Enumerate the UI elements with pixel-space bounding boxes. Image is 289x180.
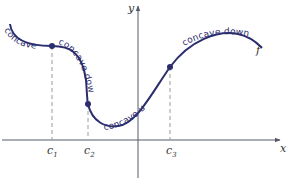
c1-label: c1 [47, 144, 58, 159]
x-axis-label: x [280, 142, 287, 155]
inflection-point-c3 [167, 64, 173, 70]
concave-up-label-1: concave up [0, 0, 40, 51]
inflection-point-c1 [49, 43, 55, 49]
c3-label: c3 [166, 144, 177, 159]
c2-label: c2 [84, 144, 95, 159]
concave-up-label-2: concave up [0, 0, 147, 132]
concave-down-label-2: concave down [180, 26, 250, 48]
y-axis-label: y [127, 2, 135, 15]
concavity-diagram: x y c1 c2 c3 f concave up concave down c… [0, 0, 289, 180]
inflection-point-c2 [85, 101, 91, 107]
